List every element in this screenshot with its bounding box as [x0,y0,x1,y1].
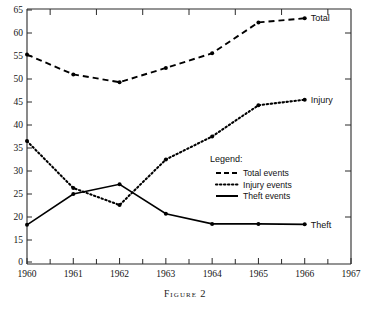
x-tick-label: 1964 [203,269,222,279]
x-tick-label: 1966 [295,269,314,279]
data-point [118,80,122,84]
data-point [118,182,122,186]
y-tick-label: 65 [14,5,24,15]
data-point [256,222,260,226]
y-tick-label: 20 [14,212,24,222]
legend-label-total: Total events [243,168,289,178]
data-point [303,98,307,102]
series-end-label-theft: Theft [311,220,332,230]
data-point [210,135,214,139]
data-point [164,212,168,216]
right-axis-ticks [345,33,351,217]
y-axis-tick-labels: 01520253035404550556065 [14,5,24,267]
line-chart: 01520253035404550556065 1960196119621963… [0,0,370,310]
x-tick-label: 1967 [342,269,361,279]
figure-caption-number: 2 [200,288,206,299]
data-point [164,158,168,162]
legend-label-injury: Injury events [243,180,292,190]
data-point [118,203,122,207]
y-tick-label: 30 [14,166,24,176]
data-point [256,103,260,107]
y-tick-label: 50 [14,74,24,84]
x-tick-label: 1961 [64,269,83,279]
data-point [256,20,260,24]
x-tick-label: 1962 [110,269,129,279]
figure-container: 01520253035404550556065 1960196119621963… [0,0,370,310]
data-point [303,222,307,226]
top-axis-ticks [50,9,328,15]
y-tick-label: 60 [14,28,24,38]
legend: Legend:Total eventsInjury eventsTheft ev… [210,154,292,201]
data-point [25,53,29,57]
y-tick-label: 25 [14,189,24,199]
figure-caption: Figure2 [0,288,370,299]
y-tick-label: 40 [14,120,24,130]
x-axis-minor-ticks [50,259,328,264]
axis-frame [27,9,351,264]
figure-caption-word: Figure [164,288,197,299]
legend-label-theft: Theft events [243,191,290,201]
data-point [210,222,214,226]
series-end-labels: TotalInjuryTheft [311,13,334,229]
legend-title: Legend: [210,154,243,164]
x-tick-label: 1960 [18,269,37,279]
series-end-label-total: Total [311,13,330,23]
series-end-label-injury: Injury [311,95,334,105]
plot-frame [27,9,351,264]
data-point [25,139,29,143]
data-point [71,186,75,190]
data-point [210,51,214,55]
y-tick-label: 35 [14,143,24,153]
data-point [164,66,168,70]
data-point [25,223,29,227]
x-tick-label: 1963 [156,269,175,279]
series-line-total [27,18,305,82]
data-point [303,16,307,20]
x-axis-tick-labels: 19601961196219631964196519661967 [18,269,361,279]
x-tick-label: 1965 [249,269,268,279]
data-point [71,72,75,76]
y-tick-label: 0 [18,257,23,267]
data-point [71,192,75,196]
y-tick-label: 15 [14,235,24,245]
y-tick-label: 45 [14,97,24,107]
y-tick-label: 55 [14,51,24,61]
